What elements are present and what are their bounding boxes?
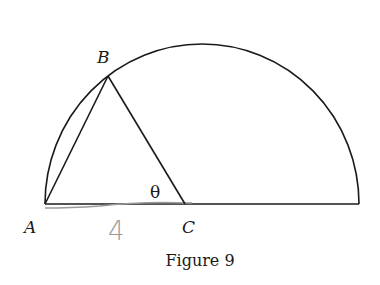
point-label-b: B <box>96 47 110 67</box>
figure-caption: Figure 9 <box>165 251 234 270</box>
semicircle-arc <box>45 44 359 204</box>
handwritten-length-label: 4 <box>108 216 125 246</box>
segment-bc <box>108 76 185 204</box>
figure-9-diagram: B A C θ 4 Figure 9 <box>0 0 380 285</box>
segment-ab <box>45 76 108 204</box>
angle-theta-label: θ <box>150 182 160 202</box>
point-label-c: C <box>182 217 195 237</box>
point-label-a: A <box>22 217 36 237</box>
